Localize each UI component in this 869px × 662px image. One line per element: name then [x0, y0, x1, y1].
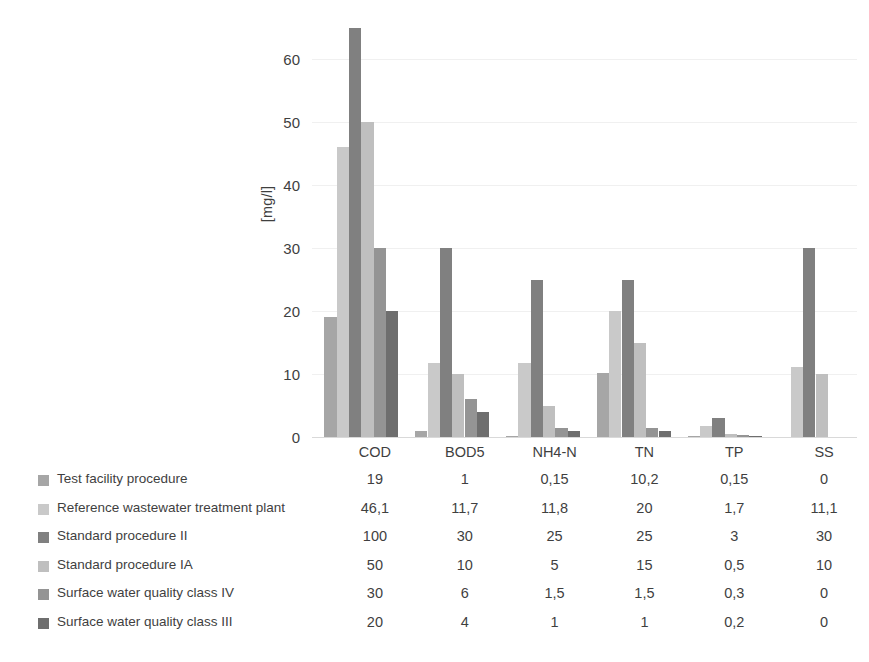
bar — [634, 343, 646, 437]
bar — [597, 373, 609, 437]
table-cell: 4 — [420, 614, 510, 630]
bar — [361, 122, 373, 437]
column-header-bod5: BOD5 — [420, 444, 510, 460]
table-cell: 30 — [420, 528, 510, 544]
table-cell: 1,5 — [600, 585, 690, 601]
table-cell: 11,8 — [510, 500, 600, 516]
bar — [555, 428, 567, 437]
table-cell: 50 — [330, 557, 420, 573]
table-cell: 1 — [600, 614, 690, 630]
table-cell: 30 — [330, 585, 420, 601]
table-row: Standard procedure II100302525330 — [0, 525, 869, 552]
table-row: Test facility procedure1910,1510,20,150 — [0, 468, 869, 495]
table-cell: 15 — [600, 557, 690, 573]
table-row: Reference wastewater treatment plant46,1… — [0, 497, 869, 524]
bar — [803, 248, 815, 437]
y-tick-50: 50 — [254, 114, 300, 131]
column-header-ss: SS — [779, 444, 869, 460]
legend-label: Standard procedure II — [57, 528, 188, 543]
bar — [415, 431, 427, 437]
bar-group-tp — [688, 0, 762, 442]
bar — [568, 431, 580, 437]
bar — [531, 280, 543, 437]
y-tick-10: 10 — [254, 366, 300, 383]
table-column-headers: CODBOD5NH4-NTNTPSS — [330, 442, 869, 466]
table-cell: 10 — [779, 557, 869, 573]
legend-label: Surface water quality class IV — [57, 585, 234, 600]
legend-swatch-icon — [38, 475, 49, 486]
column-header-tn: TN — [600, 444, 690, 460]
table-cell: 25 — [510, 528, 600, 544]
bar — [646, 428, 658, 437]
bar-group-ss — [779, 0, 853, 442]
y-tick-40: 40 — [254, 177, 300, 194]
bar — [659, 431, 671, 437]
table-cell: 11,7 — [420, 500, 510, 516]
table-cell: 20 — [600, 500, 690, 516]
table-cell: 0 — [779, 471, 869, 487]
bar — [428, 363, 440, 437]
bar — [386, 311, 398, 437]
table-row: Surface water quality class IV3061,51,50… — [0, 582, 869, 609]
column-header-nh4-n: NH4-N — [510, 444, 600, 460]
y-tick-60: 60 — [254, 51, 300, 68]
legend-label: Standard procedure IA — [57, 557, 193, 572]
table-cell: 19 — [330, 471, 420, 487]
table-cell: 25 — [600, 528, 690, 544]
bar — [791, 367, 803, 437]
table-cell: 20 — [330, 614, 420, 630]
bar-group-cod — [324, 0, 398, 442]
table-cell: 3 — [689, 528, 779, 544]
bar — [324, 317, 336, 437]
table-cell: 1,7 — [689, 500, 779, 516]
chart-figure: [mg/l] 0102030405060 CODBOD5NH4-NTNTPSS … — [0, 0, 869, 662]
bar — [477, 412, 489, 437]
legend-label: Surface water quality class III — [57, 614, 233, 629]
table-cell: 0,15 — [689, 471, 779, 487]
legend-swatch-icon — [38, 504, 49, 515]
legend-swatch-icon — [38, 532, 49, 543]
table-cell: 100 — [330, 528, 420, 544]
bar — [440, 248, 452, 437]
table-cell: 0 — [779, 585, 869, 601]
y-axis-tick-labels: 0102030405060 — [252, 0, 300, 442]
legend-swatch-icon — [38, 589, 49, 600]
column-header-tp: TP — [689, 444, 779, 460]
legend-swatch-icon — [38, 618, 49, 629]
bar — [712, 418, 724, 437]
bar — [465, 399, 477, 437]
bar — [816, 374, 828, 437]
table-cell: 6 — [420, 585, 510, 601]
bar — [349, 28, 361, 437]
bar — [749, 436, 761, 437]
column-header-cod: COD — [330, 444, 420, 460]
y-tick-30: 30 — [254, 240, 300, 257]
bar — [452, 374, 464, 437]
table-cell: 0,2 — [689, 614, 779, 630]
table-cell: 1 — [420, 471, 510, 487]
table-cell: 0,15 — [510, 471, 600, 487]
table-cell: 11,1 — [779, 500, 869, 516]
bar — [337, 147, 349, 437]
table-cell: 0,5 — [689, 557, 779, 573]
bar — [700, 426, 712, 437]
table-cell: 10,2 — [600, 471, 690, 487]
bar-group-tn — [597, 0, 671, 442]
table-cell: 1 — [510, 614, 600, 630]
bar — [725, 434, 737, 437]
bar-group-nh4-n — [506, 0, 580, 442]
bar — [374, 248, 386, 437]
bar — [543, 406, 555, 437]
table-cell: 1,5 — [510, 585, 600, 601]
table-row: Standard procedure IA50105150,510 — [0, 554, 869, 581]
table-cell: 10 — [420, 557, 510, 573]
bar-group-bod5 — [415, 0, 489, 442]
legend-swatch-icon — [38, 561, 49, 572]
table-cell: 5 — [510, 557, 600, 573]
data-table: CODBOD5NH4-NTNTPSS Test facility procedu… — [0, 442, 869, 662]
bar — [609, 311, 621, 437]
bar — [622, 280, 634, 437]
bars-layer — [312, 0, 857, 442]
bar — [688, 436, 700, 437]
bar — [737, 435, 749, 437]
